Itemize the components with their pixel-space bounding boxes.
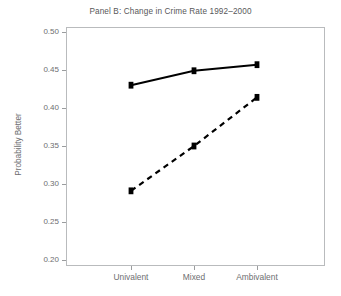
plot-area bbox=[66, 27, 325, 266]
y-tick-mark bbox=[62, 260, 66, 261]
y-tick-label: 0.40 bbox=[0, 103, 59, 112]
chart-title: Panel B: Change in Crime Rate 1992–2000 bbox=[0, 7, 341, 16]
y-tick-mark bbox=[62, 184, 66, 185]
y-tick-mark bbox=[62, 70, 66, 71]
x-tick-mark bbox=[257, 266, 258, 270]
y-tick-label: 0.25 bbox=[0, 217, 59, 226]
x-tick-mark bbox=[194, 266, 195, 270]
y-tick-mark bbox=[62, 146, 66, 147]
y-tick-mark bbox=[62, 108, 66, 109]
y-tick-label: 0.45 bbox=[0, 65, 59, 74]
x-tick-mark bbox=[131, 266, 132, 270]
y-tick-mark bbox=[62, 32, 66, 33]
y-tick-label: 0.30 bbox=[0, 179, 59, 188]
x-tick-label-ambivalent: Ambivalent bbox=[197, 272, 317, 282]
y-tick-label: 0.20 bbox=[0, 255, 59, 264]
y-tick-label: 0.35 bbox=[0, 141, 59, 150]
y-tick-mark bbox=[62, 222, 66, 223]
y-tick-label: 0.50 bbox=[0, 27, 59, 36]
chart-figure: Panel B: Change in Crime Rate 1992–2000 … bbox=[0, 0, 341, 296]
